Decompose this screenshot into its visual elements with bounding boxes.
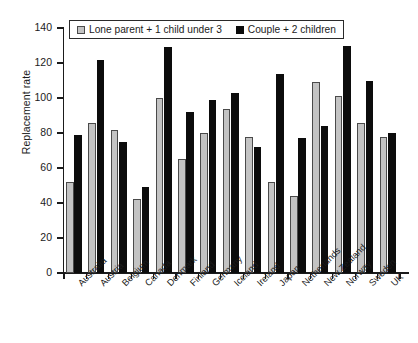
y-axis-tick-label: 120 <box>8 56 52 68</box>
y-axis-tick-label: 60 <box>8 161 52 173</box>
grey-swatch-icon <box>77 26 85 34</box>
y-axis-tick <box>57 237 63 238</box>
bar-uk-series-2 <box>388 133 396 273</box>
y-axis-tick-label: 20 <box>8 231 52 243</box>
bar-denmark-series-2 <box>164 47 172 273</box>
bar-netherlands-series-1 <box>290 196 298 273</box>
chart-legend: Lone parent + 1 child under 3Couple + 2 … <box>69 20 344 39</box>
bar-austria-series-1 <box>88 123 96 274</box>
bar-norway-series-2 <box>343 46 351 274</box>
y-axis-tick-label: 40 <box>8 196 52 208</box>
x-axis-tick <box>63 274 64 279</box>
bar-finland-series-1 <box>178 159 186 273</box>
y-axis-tick-label: 0 <box>8 266 52 278</box>
bar-ireland-series-1 <box>245 137 253 274</box>
bar-ireland-series-2 <box>254 147 262 273</box>
y-axis-tick <box>57 132 63 133</box>
y-axis-tick-label: 100 <box>8 91 52 103</box>
bar-uk-series-1 <box>380 137 388 274</box>
bar-iceland-series-1 <box>223 109 231 274</box>
bar-sweden-series-2 <box>366 81 374 274</box>
bar-iceland-series-2 <box>231 93 239 273</box>
bar-denmark-series-1 <box>156 98 164 273</box>
y-axis-tick-label: 140 <box>8 21 52 33</box>
bar-belgium-series-1 <box>111 130 119 274</box>
y-axis-tick <box>57 97 63 98</box>
bar-australia-series-1 <box>66 182 74 273</box>
y-axis-tick-label: 80 <box>8 126 52 138</box>
legend-entry-1: Lone parent + 1 child under 3 <box>77 24 222 35</box>
y-axis-tick <box>57 62 63 63</box>
x-axis-label-uk: UK <box>389 272 405 288</box>
bar-finland-series-2 <box>186 112 194 273</box>
plot-area <box>64 28 400 273</box>
bar-japan-series-2 <box>276 74 284 273</box>
bar-germany-series-1 <box>200 133 208 273</box>
bar-australia-series-2 <box>74 135 82 273</box>
bar-austria-series-2 <box>97 60 105 274</box>
y-axis-tick <box>57 167 63 168</box>
black-swatch-icon <box>236 26 244 34</box>
y-axis-tick <box>57 27 63 28</box>
bar-germany-series-2 <box>209 100 217 273</box>
replacement-rate-bar-chart: Replacement rate 020406080100120140 Aust… <box>0 0 418 343</box>
bar-new-zealand-series-2 <box>321 126 329 273</box>
bar-belgium-series-2 <box>119 142 127 273</box>
bar-japan-series-1 <box>268 182 276 273</box>
legend-entry-2: Couple + 2 children <box>236 24 336 35</box>
y-axis-tick <box>57 272 63 273</box>
bar-new-zealand-series-1 <box>312 82 320 273</box>
y-axis-tick <box>57 202 63 203</box>
bar-netherlands-series-2 <box>298 138 306 273</box>
legend-label: Couple + 2 children <box>248 24 336 35</box>
legend-label: Lone parent + 1 child under 3 <box>89 24 222 35</box>
